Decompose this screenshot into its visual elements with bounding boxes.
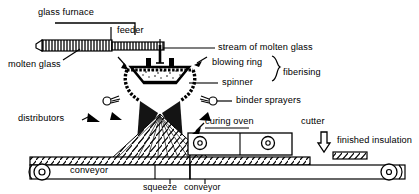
label-distributors: distributors — [18, 114, 64, 123]
cutter-blade — [318, 132, 330, 152]
glass-furnace-channel — [36, 40, 164, 51]
label-finished-insulation: finished insulation — [337, 136, 412, 145]
label-squeeze-conveyor: conveyor — [184, 183, 221, 192]
binder-sprayer-left-icon — [103, 96, 120, 105]
label-spinner: spinner — [222, 78, 253, 87]
label-feeder: feeder — [117, 26, 144, 35]
label-fiberising: fiberising — [283, 68, 321, 77]
binder-sprayer-right-icon — [200, 96, 232, 105]
label-stream-of-molten-glass: stream of molten glass — [218, 43, 313, 52]
curing-oven — [188, 123, 292, 155]
label-conveyor: conveyor — [70, 166, 108, 175]
main-conveyor — [29, 157, 190, 180]
process-diagram: glass furnace feeder molten glass stream… — [0, 0, 419, 194]
label-cutter: cutter — [301, 117, 325, 126]
label-molten-glass: molten glass — [8, 60, 61, 69]
label-squeeze: squeeze — [143, 183, 177, 192]
label-glass-furnace: glass furnace — [38, 8, 94, 17]
squeeze-conveyor — [155, 157, 405, 180]
finished-insulation-slab — [333, 152, 367, 159]
label-curing-oven: curing oven — [205, 117, 254, 126]
diagram-canvas — [0, 0, 419, 194]
molten-glass-stream — [156, 45, 215, 63]
label-blowing-ring: blowing ring — [212, 58, 262, 67]
label-binder-sprayers: binder sprayers — [236, 96, 301, 105]
